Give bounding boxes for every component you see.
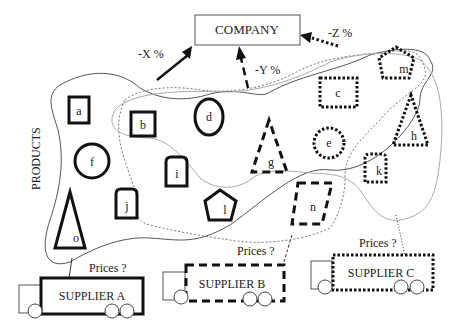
svg-text:j: j [124, 199, 128, 213]
product-j: j [116, 189, 137, 218]
discount-x-label: -X % [138, 47, 164, 61]
svg-text:o: o [73, 231, 79, 245]
product-n: n [292, 183, 332, 224]
svg-text:m: m [399, 62, 409, 76]
product-l: l [205, 190, 236, 220]
products-axis-label: PRODUCTS [29, 127, 43, 190]
product-f: f [75, 144, 109, 178]
svg-text:e: e [326, 136, 331, 150]
company-node: COMPANY [195, 15, 300, 45]
svg-text:f: f [90, 155, 94, 169]
supplier-a-region [45, 49, 433, 264]
discount-z-label: -Z % [328, 26, 352, 40]
company-label: COMPANY [215, 22, 279, 37]
supplier-a-label: SUPPLIER A [59, 289, 126, 303]
product-g: g [252, 120, 287, 172]
supplier-product-diagram: COMPANY -X % -Y % -Z % PRODUCTS a b c d … [0, 0, 462, 335]
svg-text:l: l [223, 203, 227, 217]
svg-text:k: k [376, 164, 382, 178]
product-b: b [131, 112, 155, 136]
product-e: e [314, 128, 344, 158]
svg-text:i: i [175, 167, 179, 181]
supplier-c-truck: Prices ? SUPPLIER C [311, 236, 433, 294]
svg-text:d: d [206, 110, 212, 124]
supplier-b-truck: Prices ? SUPPLIER B [163, 244, 284, 306]
product-k: k [365, 154, 386, 182]
supplier-c-question: Prices ? [359, 236, 397, 250]
discount-arrow-z: -Z % [300, 26, 352, 46]
supplier-a-truck: Prices ? SUPPLIER A [19, 261, 143, 318]
discount-arrow-x: -X % [138, 46, 192, 80]
supplier-b-label: SUPPLIER B [199, 277, 265, 291]
product-o: o [55, 192, 85, 248]
svg-text:a: a [76, 104, 82, 118]
svg-text:c: c [335, 86, 340, 100]
product-d: d [195, 99, 223, 135]
product-i: i [166, 157, 187, 186]
svg-text:b: b [140, 118, 146, 132]
product-a: a [69, 97, 89, 123]
supplier-b-region [119, 51, 426, 242]
supplier-b-question: Prices ? [237, 244, 275, 258]
svg-text:g: g [268, 155, 274, 169]
supplier-c-label: SUPPLIER C [348, 266, 414, 280]
product-c: c [320, 78, 357, 107]
supplier-c-region [112, 53, 442, 220]
svg-text:h: h [411, 129, 417, 143]
svg-text:n: n [310, 200, 316, 214]
discount-y-label: -Y % [255, 63, 280, 77]
supplier-a-question: Prices ? [89, 261, 127, 275]
supplier-c-connector [396, 215, 406, 260]
